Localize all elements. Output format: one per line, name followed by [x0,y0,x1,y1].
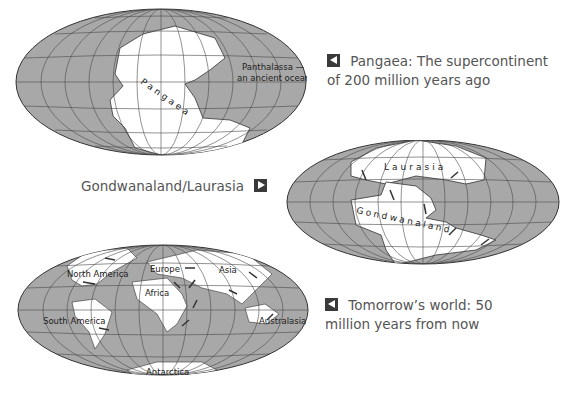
label-australasia: Australasia [259,316,306,326]
caption-tomorrow-line1: Tomorrow’s world: 50 [348,297,492,313]
label-north-america: North America [67,269,129,279]
gondwanaland-laurasia-map: Laurasia Gondwanaland [286,140,560,265]
label-laurasia: Laurasia [384,162,446,172]
label-ancient-ocean: an ancient ocean [237,73,307,83]
label-asia: Asia [219,265,237,275]
label-africa: Africa [145,288,169,298]
label-europe: Europe [150,264,180,274]
caption-pangaea: Pangaea: The supercontinent of 200 milli… [327,52,548,90]
label-panthalassa: Panthalassa — [242,62,305,72]
caption-tomorrow: Tomorrow’s world: 50 million years from … [325,296,493,334]
arrow-right-icon [254,179,267,192]
caption-tomorrow-line2: million years from now [325,316,479,332]
arrow-left-icon [325,298,338,311]
label-antarctica: Antarctica [146,367,189,377]
caption-pangaea-line2: of 200 million years ago [327,72,490,88]
arrow-left-icon [327,54,340,67]
pangaea-map: Pangaea Panthalassa — an ancient ocean [15,8,307,156]
caption-gondwanaland-text: Gondwanaland/Laurasia [81,178,244,194]
caption-gondwanaland-laurasia: Gondwanaland/Laurasia [81,177,267,196]
label-south-america: South America [43,316,105,326]
caption-pangaea-line1: Pangaea: The supercontinent [350,53,548,69]
tomorrows-world-map: North America Europe Asia Africa South A… [17,244,309,378]
